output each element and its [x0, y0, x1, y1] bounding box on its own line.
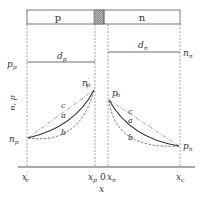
right-curves — [109, 100, 179, 146]
pp-label: pp — [7, 59, 17, 71]
pn-junction-diagram: p n dp dn pp nn n, p c a b c a b n′p p′n… — [0, 0, 203, 197]
np-prime-label: n′p — [82, 76, 90, 89]
tick-xp: xp — [88, 172, 97, 184]
tick-xn: xn — [107, 172, 116, 183]
dp-label: dp — [57, 51, 67, 63]
x-axis-label: x — [99, 184, 104, 194]
nn-label: nn — [183, 48, 193, 59]
curve-c-right: c — [128, 107, 133, 116]
curve-b-left: b — [61, 128, 66, 137]
np-label: np — [9, 134, 19, 146]
tick-xc-prime: x′c — [22, 170, 29, 183]
pn-label: pn — [183, 141, 193, 152]
n-region-label: n — [139, 12, 146, 23]
pn-prime-label: p′n — [112, 86, 120, 98]
curve-b-right: b — [128, 133, 133, 142]
y-axis-label: n, p — [8, 95, 17, 110]
curve-a-left: a — [61, 111, 66, 120]
tick-xc: xc — [176, 172, 185, 183]
curve-a-right: a — [128, 116, 133, 125]
depletion-region — [94, 10, 104, 24]
p-region-label: p — [55, 12, 61, 23]
dn-label: dn — [138, 40, 148, 51]
tick-zero: 0 — [100, 172, 106, 182]
curve-c-left: c — [61, 101, 66, 110]
